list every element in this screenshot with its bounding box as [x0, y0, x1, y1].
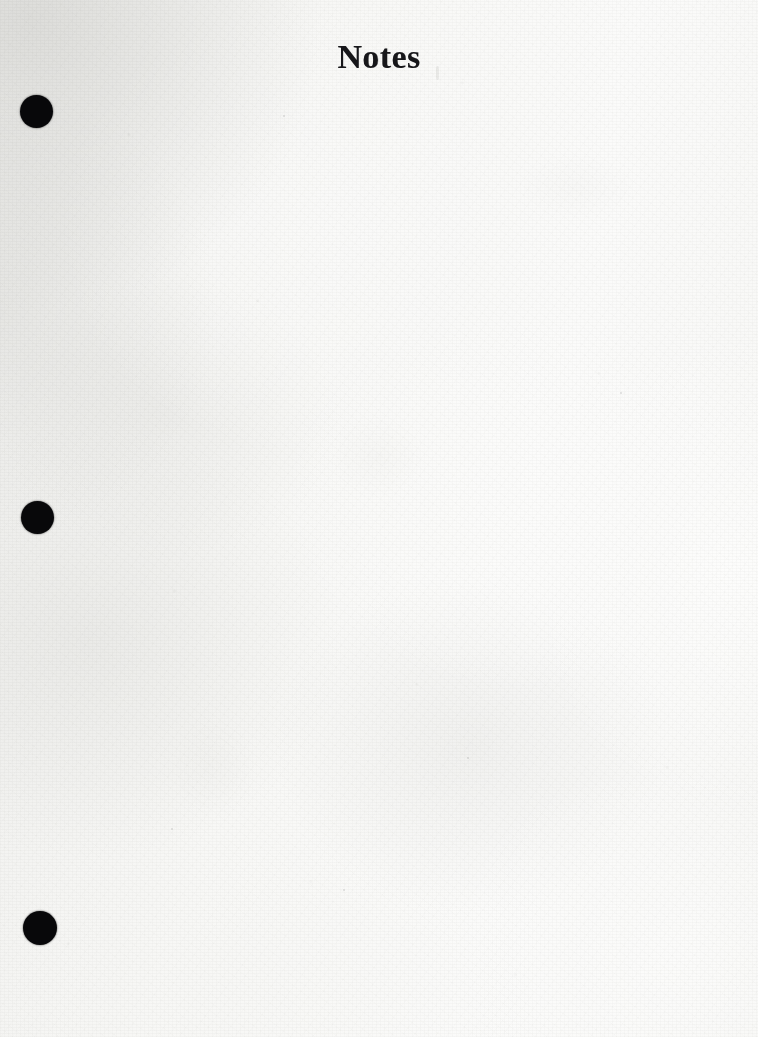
hole-middle [21, 501, 54, 534]
paper-noise-texture [0, 0, 758, 1037]
paper-fleck-4 [171, 828, 173, 830]
paper-fleck-5 [343, 889, 345, 891]
paper-fleck-2 [620, 392, 622, 394]
page-title: Notes [0, 40, 758, 74]
paper-fleck-3 [467, 757, 469, 759]
hole-bottom [23, 911, 57, 945]
paper-fleck-1 [283, 115, 285, 117]
hole-top [20, 95, 53, 128]
scanned-page: Notes [0, 0, 758, 1037]
